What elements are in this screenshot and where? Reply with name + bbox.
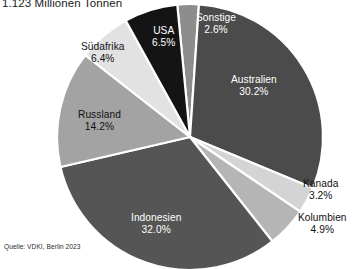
slice-label-usa-pct: 6.5%	[152, 37, 175, 49]
slice-label-indonesien-name: Indonesien	[131, 212, 181, 224]
slice-label-usa: USA 6.5%	[152, 25, 175, 48]
slice-label-russland: Russland 14.2%	[78, 109, 121, 132]
slice-label-sonstige: Sonstige 2.6%	[196, 12, 236, 35]
slice-label-australien-pct: 30.2%	[231, 86, 277, 98]
pie-chart-figure: 1.123 Millionen Tonnen Sonstige 2.6% Aus…	[0, 0, 358, 269]
slice-label-kanada-name: Kanada	[303, 178, 338, 190]
slice-label-kolumbien: Kolumbien 4.9%	[298, 212, 347, 235]
slice-label-sonstige-name: Sonstige	[196, 12, 236, 24]
slice-label-australien-name: Australien	[231, 74, 277, 86]
slice-label-suedafrika: Südafrika 6.4%	[81, 41, 125, 64]
slice-label-kanada-pct: 3.2%	[303, 190, 338, 202]
slice-label-russland-name: Russland	[78, 109, 121, 121]
slice-label-sonstige-pct: 2.6%	[196, 24, 236, 36]
slice-label-indonesien: Indonesien 32.0%	[131, 212, 181, 235]
slice-label-indonesien-pct: 32.0%	[131, 224, 181, 236]
slice-label-usa-name: USA	[152, 25, 175, 37]
slice-label-suedafrika-pct: 6.4%	[81, 53, 125, 65]
slice-label-suedafrika-name: Südafrika	[81, 41, 125, 53]
slice-label-kanada: Kanada 3.2%	[303, 178, 338, 201]
slice-label-kolumbien-name: Kolumbien	[298, 212, 347, 224]
slice-label-kolumbien-pct: 4.9%	[298, 224, 347, 236]
chart-source: Quelle: VDKI, Berlin 2023	[4, 243, 80, 250]
slice-label-australien: Australien 30.2%	[231, 74, 277, 97]
slice-label-russland-pct: 14.2%	[78, 121, 121, 133]
